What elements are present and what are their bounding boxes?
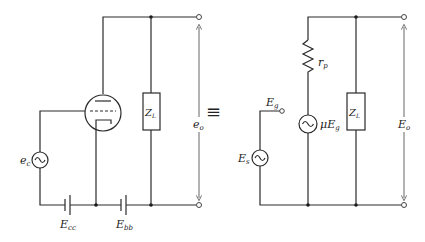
battery-ebb-icon [121,195,126,215]
output-terminal-top [402,15,407,20]
equivalence-symbol: ≡ [206,101,221,122]
label-rp: rp [318,56,328,70]
grid-terminal [280,109,285,114]
label-eo: eo [193,118,204,132]
label-ec: ec [20,154,31,168]
battery-ecc-icon [65,195,70,215]
triode-tube-icon [85,95,121,131]
label-zl: ZL [348,107,360,119]
label-mu-eg: μEg [320,118,340,132]
label-eg: Eg [265,96,279,110]
junction [306,203,310,207]
junction [94,203,98,207]
grid-wire [40,111,85,152]
label-ecc: Ecc [59,218,76,232]
left-circuit [32,15,202,216]
label-ebb: Ebb [115,218,134,232]
label-zl: ZL [144,107,156,119]
output-terminal-bottom [197,203,202,208]
circuit-diagram: ec Ecc Ebb ZL eo ≡ [0,0,425,242]
plate-wire [103,17,196,94]
output-terminal-bottom [402,203,407,208]
output-terminal-top [197,15,202,20]
label-es: Es [237,152,250,166]
ac-source-ec-icon [32,152,48,168]
right-circuit [252,15,407,208]
ac-source-es-icon [252,150,268,166]
dependent-source-icon [299,115,317,133]
resistor-rp-icon [303,40,313,115]
label-eo: Eo [397,118,410,132]
